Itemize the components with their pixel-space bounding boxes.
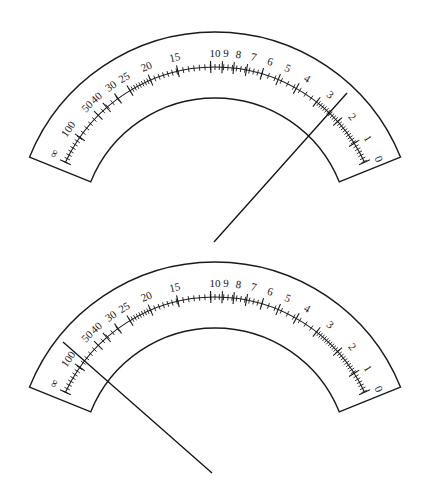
scale-label: 30: [103, 308, 119, 324]
scale-label: 9: [223, 47, 230, 59]
minor-tick: [348, 136, 353, 139]
minor-tick: [232, 65, 233, 71]
scale-label: 4: [302, 72, 313, 85]
major-tick: [75, 134, 85, 141]
minor-tick: [348, 366, 353, 369]
scale-label: 6: [266, 285, 275, 298]
scale-label: 20: [139, 58, 154, 73]
scale-label: 6: [266, 55, 275, 68]
major-tick: [359, 390, 370, 395]
scale-label: 100: [58, 118, 78, 139]
minor-ticks: [63, 294, 367, 394]
minor-tick: [298, 88, 301, 93]
minor-tick: [199, 295, 200, 301]
minor-tick: [240, 296, 241, 302]
minor-tick: [188, 66, 189, 72]
minor-tick: [194, 295, 195, 301]
minor-ticks: [63, 64, 367, 164]
minor-tick: [240, 66, 241, 72]
minor-tick: [199, 65, 200, 71]
major-tick: [222, 291, 223, 303]
minor-tick: [310, 96, 314, 101]
minor-tick: [188, 296, 189, 302]
scale-label: 7: [250, 280, 258, 293]
scale-label: 100: [58, 348, 78, 369]
minor-tick: [183, 67, 184, 73]
scale-label: 9: [223, 277, 230, 289]
minor-tick: [75, 370, 80, 373]
scale-label: 7: [250, 50, 258, 63]
minor-tick: [245, 67, 246, 73]
minor-tick: [310, 326, 314, 331]
scale-label: 0: [372, 384, 385, 394]
scale-label: 15: [168, 50, 182, 64]
scale-label: 1: [361, 133, 374, 144]
scale-label: 8: [235, 48, 243, 61]
major-tick: [313, 327, 320, 336]
minor-tick: [349, 138, 354, 141]
major-tick: [127, 85, 133, 95]
minor-tick: [346, 133, 351, 137]
minor-tick: [304, 92, 307, 97]
scale-label: 10: [210, 47, 222, 59]
minor-tick: [245, 297, 246, 303]
minor-tick: [249, 68, 250, 74]
scale-label: 20: [139, 288, 154, 303]
minor-tick: [298, 318, 301, 323]
minor-tick: [236, 295, 237, 301]
scale-labels: ∞100504030252015109876543210: [47, 47, 386, 165]
minor-tick: [304, 322, 307, 327]
scale-label: 25: [116, 299, 132, 315]
scale-label: 30: [103, 78, 119, 94]
major-tick: [103, 333, 111, 342]
scale-label: 1: [361, 363, 374, 374]
minor-tick: [232, 295, 233, 301]
scale-label: 3: [324, 88, 336, 101]
scale-label: 4: [302, 302, 313, 315]
top-dial: ∞100504030252015109876543210: [30, 32, 401, 242]
scale-label: ∞: [47, 377, 61, 389]
minor-tick: [249, 298, 250, 304]
scale-label: 3: [324, 318, 336, 331]
scale-label: 0: [372, 154, 385, 164]
scale-labels: ∞100504030252015109876543210: [47, 277, 386, 395]
scale-label: 8: [235, 278, 243, 291]
scale-label: 25: [116, 69, 132, 85]
major-tick: [233, 62, 234, 74]
major-tick: [103, 103, 111, 112]
major-tick: [114, 324, 121, 334]
major-tick: [359, 160, 370, 165]
scale-label: 2: [346, 111, 359, 123]
major-tick: [127, 315, 133, 325]
major-tick: [60, 390, 71, 395]
major-tick: [60, 160, 71, 165]
major-ticks: [60, 61, 370, 165]
minor-tick: [346, 363, 351, 367]
scale-label: ∞: [47, 147, 61, 159]
minor-tick: [349, 368, 354, 371]
major-ticks: [60, 291, 370, 395]
major-tick: [114, 94, 121, 104]
scale-label: 5: [283, 291, 293, 304]
scale-label: 10: [210, 277, 222, 289]
scale-label: 5: [283, 61, 293, 74]
minor-tick: [236, 65, 237, 71]
major-tick: [75, 364, 85, 371]
major-tick: [222, 61, 223, 73]
major-tick: [313, 97, 320, 106]
minor-tick: [194, 65, 195, 71]
meter-diagram: ∞100504030252015109876543210 ∞1005040302…: [0, 0, 426, 504]
needle-pointer: [63, 342, 212, 473]
minor-tick: [183, 297, 184, 303]
minor-tick: [75, 140, 80, 143]
scale-label: 15: [168, 280, 182, 294]
scale-label: 2: [346, 341, 359, 353]
major-tick: [233, 292, 234, 304]
bottom-dial: ∞100504030252015109876543210: [30, 262, 401, 473]
